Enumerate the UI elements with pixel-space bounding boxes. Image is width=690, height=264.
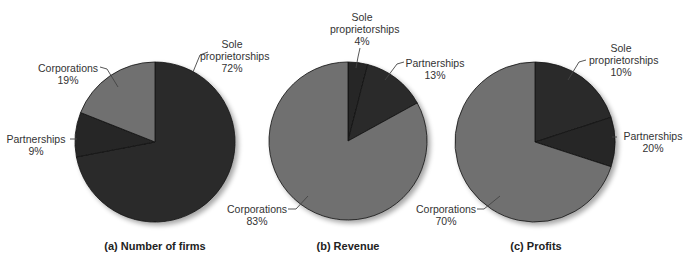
label-b-corporations: Corporations 83%: [227, 203, 287, 227]
label-text: Corporations: [227, 203, 287, 215]
pie-b: [269, 62, 427, 220]
label-text: proprietorships: [589, 54, 653, 66]
caption-revenue: (b) Revenue: [317, 240, 380, 252]
label-text: Corporations: [38, 62, 98, 74]
label-text: Sole: [200, 38, 264, 50]
label-value: 72%: [200, 62, 264, 74]
label-a-sole-proprietorships: Sole proprietorships 72%: [200, 38, 264, 74]
label-text: Partnerships: [405, 57, 465, 69]
label-c-corporations: Corporations 70%: [416, 203, 476, 227]
label-a-partnerships: Partnerships 9%: [6, 133, 66, 157]
label-value: 20%: [621, 142, 685, 154]
label-value: 70%: [416, 215, 476, 227]
label-text: Sole: [589, 42, 653, 54]
chart-figure: Sole proprietorships 72% Partnerships 9%…: [0, 0, 690, 264]
label-text: proprietorships: [200, 50, 264, 62]
label-text: Partnerships: [621, 130, 685, 142]
label-text: Partnerships: [6, 133, 66, 145]
label-value: 83%: [227, 215, 287, 227]
label-value: 10%: [589, 66, 653, 78]
pie-a: [75, 62, 235, 222]
label-b-sole-proprietorships: Sole proprietorships 4%: [330, 11, 394, 47]
label-value: 9%: [6, 145, 66, 157]
label-b-partnerships: Partnerships 13%: [405, 57, 465, 81]
label-text: Sole: [330, 11, 394, 23]
caption-number-of-firms: (a) Number of firms: [104, 240, 205, 252]
label-text: proprietorships: [330, 23, 394, 35]
label-value: 13%: [405, 69, 465, 81]
label-value: 19%: [38, 74, 98, 86]
caption-profits: (c) Profits: [510, 240, 561, 252]
label-c-sole-proprietorships: Sole proprietorships 10%: [589, 42, 653, 78]
label-a-corporations: Corporations 19%: [38, 62, 98, 86]
label-c-partnerships: Partnerships 20%: [621, 130, 685, 154]
label-text: Corporations: [416, 203, 476, 215]
pie-c: [455, 62, 615, 222]
label-value: 4%: [330, 35, 394, 47]
